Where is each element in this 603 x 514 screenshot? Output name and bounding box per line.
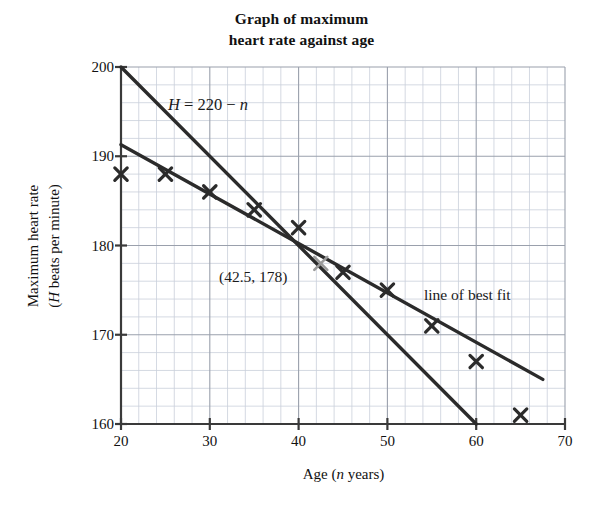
data-point-marker	[514, 409, 526, 421]
equation-operator: = 220 −	[180, 95, 240, 114]
data-point-marker	[426, 320, 438, 332]
plot-area	[0, 0, 603, 514]
chart-figure: Graph of maximum heart rate against age …	[0, 0, 603, 514]
equation-lhs-H: H	[168, 95, 180, 114]
equation-rhs-n: n	[240, 95, 248, 114]
best-fit-line-label: line of best fit	[424, 286, 511, 304]
intersection-point-label: (42.5, 178)	[219, 268, 287, 286]
equation-annotation: H = 220 − n	[168, 95, 248, 115]
trend-line	[121, 145, 543, 380]
axis-ticks	[115, 67, 565, 430]
